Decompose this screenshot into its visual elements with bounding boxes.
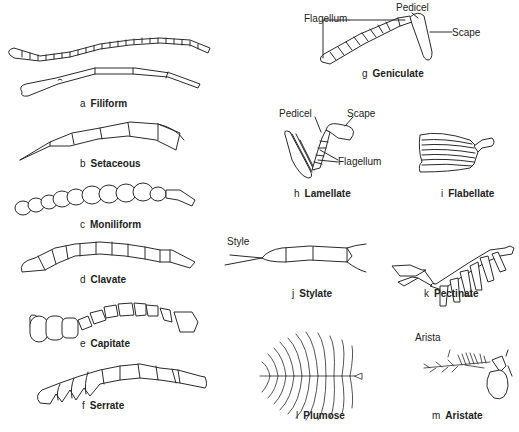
caption-clavate: dClavate [80,274,126,285]
caption-name: Plumose [303,410,345,421]
caption-stylate: jStylate [292,288,332,299]
caption-letter: h [294,188,300,199]
capitate-antenna [30,303,198,342]
lamellate-antenna [285,117,354,178]
filiform-antenna-lower [21,68,200,96]
caption-name: Geniculate [373,68,424,79]
caption-letter: j [292,288,294,299]
caption-name: Moniliform [90,219,141,230]
setaceous-antenna [20,122,184,160]
caption-name: Flabellate [448,188,494,199]
caption-flabellate: iFlabellate [441,188,494,199]
caption-serrate: fSerrate [82,400,124,411]
aristate-antenna [424,350,512,399]
caption-name: Clavate [91,274,127,285]
caption-geniculate: gGeniculate [362,68,424,79]
caption-letter: m [432,410,440,421]
caption-letter: d [80,274,86,285]
caption-name: Aristate [445,410,482,421]
caption-name: Capitate [91,338,130,349]
caption-letter: e [80,338,86,349]
caption-pectinate: kPectinate [424,288,478,299]
caption-setaceous: bSetaceous [80,158,141,169]
antenna-diagram [0,0,519,432]
plumose-antenna [260,332,362,420]
flabellate-antenna [419,133,494,172]
caption-plumose: lPlumose [296,410,345,421]
caption-letter: k [424,288,429,299]
caption-moniliform: cMoniliform [80,219,141,230]
caption-letter: a [80,98,86,109]
caption-name: Pectinate [434,288,478,299]
caption-letter: f [82,400,85,411]
caption-lamellate: hLamellate [294,188,351,199]
stylate-antenna [225,244,366,272]
caption-name: Filiform [91,98,128,109]
clavate-antenna [21,242,195,272]
caption-capitate: eCapitate [80,338,130,349]
label-stylate-style: Style [227,236,249,247]
caption-letter: l [296,410,298,421]
caption-name: Lamellate [305,188,351,199]
caption-name: Stylate [299,288,332,299]
moniliform-antenna [15,183,195,215]
caption-letter: b [80,158,86,169]
label-aristate-arista: Arista [415,332,441,343]
label-lamellate-pedicel: Pedicel [279,108,312,119]
label-geniculate-scape: Scape [452,27,480,38]
caption-letter: c [80,219,85,230]
label-lamellate-flagellum: Flagellum [338,156,381,167]
caption-filiform: aFiliform [80,98,127,109]
caption-name: Serrate [90,400,124,411]
caption-name: Setaceous [91,158,141,169]
serrate-antenna [37,364,206,404]
caption-letter: g [362,68,368,79]
filiform-antenna-upper [9,38,210,61]
caption-aristate: mAristate [432,410,483,421]
label-geniculate-pedicel: Pedicel [396,2,429,13]
label-geniculate-flagellum: Flagellum [304,13,347,24]
caption-letter: i [441,188,443,199]
label-lamellate-scape: Scape [347,108,375,119]
